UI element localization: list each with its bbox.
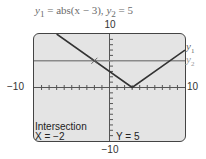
xmax-label: 10: [187, 81, 198, 92]
ymax-label: 10: [100, 19, 120, 30]
intersection-y-value: Y = 5: [116, 131, 139, 142]
chart-title: y1 = abs(x − 3), y2 = 5: [35, 4, 133, 19]
xmin-label: −10: [7, 81, 24, 92]
intersection-x-value: X = −2: [35, 131, 64, 142]
legend-y2: y2: [186, 53, 194, 68]
y1-expression: = abs(x − 3),: [44, 4, 106, 16]
ymin-label: −10: [95, 144, 125, 155]
legend-y2-sub: 2: [191, 60, 195, 68]
y2-expression: = 5: [116, 4, 133, 16]
